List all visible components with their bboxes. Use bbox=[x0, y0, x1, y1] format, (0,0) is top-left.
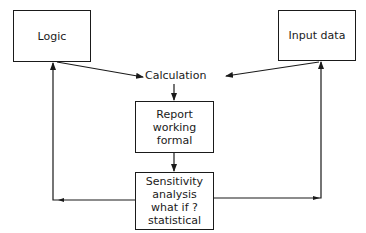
sensitivity-line-3: what if ? bbox=[151, 201, 198, 214]
report-box: Report working formal bbox=[135, 101, 214, 153]
logic-label: Logic bbox=[38, 30, 67, 43]
input-data-label: Input data bbox=[289, 29, 346, 42]
arrowhead-right-corner bbox=[313, 196, 320, 200]
sensitivity-line-2: analysis bbox=[152, 188, 197, 201]
input-data-box: Input data bbox=[278, 10, 356, 61]
sensitivity-line-4: statistical bbox=[148, 214, 201, 227]
report-line-2: working bbox=[153, 121, 197, 134]
sensitivity-analysis-box: Sensitivity analysis what if ? statistic… bbox=[135, 172, 214, 230]
flowchart-canvas: Logic Input data Calculation Report work… bbox=[0, 0, 366, 233]
arrowhead-left-corner bbox=[58, 198, 64, 202]
report-line-3: formal bbox=[157, 134, 192, 147]
report-line-1: Report bbox=[156, 108, 192, 121]
arrow-input-to-calculation bbox=[226, 62, 319, 76]
sensitivity-line-1: Sensitivity bbox=[146, 175, 203, 188]
calculation-label: Calculation bbox=[145, 69, 206, 82]
logic-box: Logic bbox=[13, 10, 91, 62]
arrow-sensitivity-to-input bbox=[213, 62, 321, 198]
arrow-logic-to-calculation bbox=[57, 62, 143, 77]
arrow-sensitivity-to-logic bbox=[53, 63, 135, 200]
